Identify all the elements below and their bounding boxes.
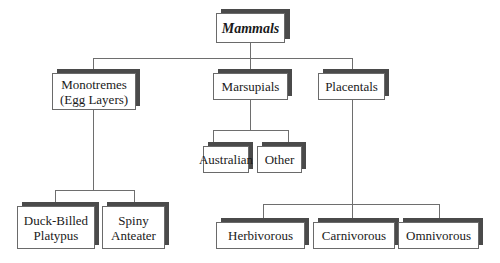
node-australian: Australian — [203, 146, 249, 173]
connector-placentals-down — [352, 100, 353, 204]
node-label-herbivorous: Herbivorous — [228, 228, 293, 243]
node-mammals: Mammals — [216, 13, 285, 43]
node-spiny-anteater: Spiny Anteater — [102, 206, 165, 249]
connector-level1-bar — [93, 58, 353, 59]
node-monotremes: Monotremes (Egg Layers) — [52, 73, 136, 110]
node-carnivorous: Carnivorous — [313, 222, 395, 249]
node-label-marsupials: Marsupials — [222, 79, 280, 94]
node-marsupials: Marsupials — [213, 73, 288, 100]
connector-root-down — [250, 43, 251, 58]
node-label-duck-billed-platypus: Duck-Billed Platypus — [24, 213, 88, 243]
node-other: Other — [257, 146, 302, 173]
connector-monotremes-down — [93, 110, 94, 190]
node-label-other: Other — [265, 152, 295, 167]
node-label-mammals: Mammals — [222, 21, 280, 36]
connector-monotremes-bar — [55, 190, 135, 191]
connector-marsupials-down — [250, 100, 251, 130]
node-label-placentals: Placentals — [325, 79, 378, 94]
connector-marsupials-bar — [213, 130, 289, 131]
node-label-omnivorous: Omnivorous — [406, 228, 471, 243]
node-placentals: Placentals — [318, 73, 385, 100]
node-label-australian: Australian — [199, 152, 253, 167]
node-herbivorous: Herbivorous — [216, 222, 305, 249]
node-label-spiny-anteater: Spiny Anteater — [111, 213, 156, 243]
taxonomy-diagram: Mammals Monotremes (Egg Layers) Marsupia… — [0, 0, 500, 263]
node-duck-billed-platypus: Duck-Billed Platypus — [17, 206, 95, 249]
node-label-monotremes: Monotremes (Egg Layers) — [60, 77, 128, 107]
node-omnivorous: Omnivorous — [398, 222, 479, 249]
node-label-carnivorous: Carnivorous — [322, 228, 386, 243]
